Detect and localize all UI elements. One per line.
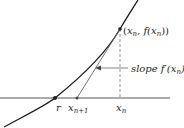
slope-label: slope f′(xn): [131, 63, 184, 76]
root-label: r: [56, 102, 62, 113]
x-n-label: xn: [116, 102, 127, 115]
root-point: [53, 96, 57, 100]
arrow-head-icon: [95, 66, 101, 71]
tangent-point-label: (xn, f(xn)): [123, 25, 169, 38]
x-next-label: xn+1: [68, 102, 88, 115]
tangent-point: [118, 27, 122, 31]
x-next-point: [76, 97, 79, 100]
newton-method-diagram: (xn, f(xn)) slope f′(xn) r xn+1 xn: [0, 0, 184, 128]
tangent-line: [77, 29, 120, 98]
